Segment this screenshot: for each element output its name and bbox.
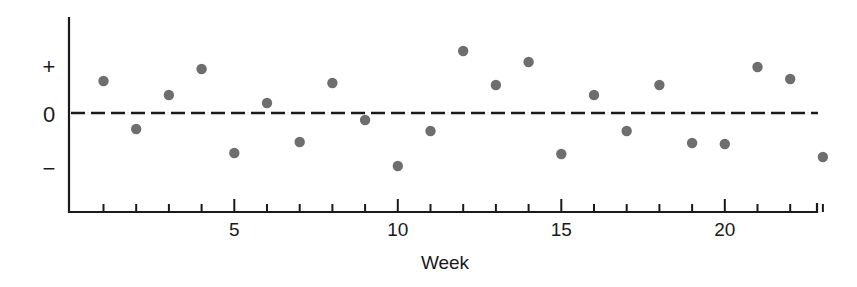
data-point — [196, 64, 206, 74]
data-point — [262, 98, 272, 108]
x-axis-title: Week — [421, 252, 470, 273]
data-points — [98, 46, 828, 171]
data-point — [654, 80, 664, 90]
data-point — [229, 148, 239, 158]
data-point — [295, 137, 305, 147]
data-point — [622, 126, 632, 136]
x-tick-label: 15 — [551, 219, 572, 240]
data-point — [818, 152, 828, 162]
x-axis-tick-labels: 5101520 — [229, 219, 735, 240]
y-axis-tick-labels: +0− — [43, 54, 56, 181]
data-point — [164, 90, 174, 100]
data-point — [327, 78, 337, 88]
x-tick-label: 10 — [387, 219, 408, 240]
x-axis-ticks — [104, 199, 823, 212]
y-tick-label: 0 — [43, 102, 55, 127]
data-point — [752, 62, 762, 72]
data-point — [360, 115, 370, 125]
data-point — [687, 138, 697, 148]
scatter-chart: 5101520 +0− Week — [0, 0, 857, 287]
chart-axes — [69, 17, 817, 212]
data-point — [491, 80, 501, 90]
data-point — [131, 124, 141, 134]
data-point — [556, 149, 566, 159]
data-point — [425, 126, 435, 136]
data-point — [785, 74, 795, 84]
y-tick-label: + — [43, 54, 56, 79]
data-point — [720, 139, 730, 149]
data-point — [393, 161, 403, 171]
y-tick-label: − — [43, 156, 56, 181]
axis-frame — [69, 17, 817, 212]
data-point — [589, 90, 599, 100]
data-point — [98, 76, 108, 86]
x-tick-label: 20 — [714, 219, 735, 240]
data-point — [523, 57, 533, 67]
data-point — [458, 46, 468, 56]
x-tick-label: 5 — [229, 219, 240, 240]
